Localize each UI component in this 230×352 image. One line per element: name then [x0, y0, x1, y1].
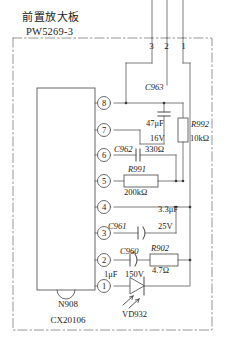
ic-part-number: CX20106 — [38, 316, 98, 325]
r991-designator: R991 — [128, 165, 146, 174]
r902-value: 4.7Ω — [152, 266, 169, 275]
c961-designator: C961 — [108, 222, 126, 231]
ic-pin-4-label: 4 — [99, 203, 109, 212]
r902-designator: R902 — [151, 244, 169, 253]
ic-pin-7-label: 7 — [99, 126, 109, 135]
c962-designator: C962 — [114, 145, 132, 154]
ic-designator: N908 — [48, 300, 88, 309]
c963-value: 47μF — [146, 119, 164, 128]
ic-notch — [57, 290, 75, 299]
connector-pin-1-label: 1 — [179, 42, 188, 51]
c961-rating: 25V — [158, 222, 173, 231]
board-title-code: PW5269-3 — [26, 27, 73, 38]
c962-value: 330Ω — [145, 145, 164, 154]
c960-rating: 150V — [125, 270, 144, 279]
board-title-chinese: 前置放大板 — [22, 12, 80, 23]
ic-pin-1-label: 1 — [99, 282, 109, 291]
circuit-schematic — [0, 0, 230, 352]
r991-body — [124, 175, 158, 187]
led-emission-arrows — [123, 296, 139, 308]
ic-pin-5-label: 5 — [99, 177, 109, 186]
ic-pin-6-label: 6 — [99, 151, 109, 160]
connector-pin-2-label: 2 — [162, 42, 171, 51]
c963-rating: 16V — [150, 134, 165, 143]
vd932-designator: VD932 — [122, 310, 147, 319]
ic-pin-2-label: 2 — [99, 256, 109, 265]
ic-body — [37, 88, 95, 290]
schematic-page: 前置放大板 PW5269-3 3 2 1 8 7 6 5 4 3 2 1 C96… — [0, 0, 230, 352]
connector-pin-3-label: 3 — [147, 42, 156, 51]
c963-designator: C963 — [145, 83, 163, 92]
ic-pin-8-label: 8 — [99, 99, 109, 108]
r991-value: 200kΩ — [124, 188, 147, 197]
r992-designator: R992 — [191, 120, 209, 129]
c960-value: 1μF — [104, 270, 118, 279]
c961-value: 3.3μF — [158, 205, 178, 214]
r992-body — [178, 118, 188, 142]
led-triangle — [130, 278, 144, 294]
c960-designator: C960 — [120, 247, 138, 256]
r992-value: 10kΩ — [190, 134, 209, 143]
